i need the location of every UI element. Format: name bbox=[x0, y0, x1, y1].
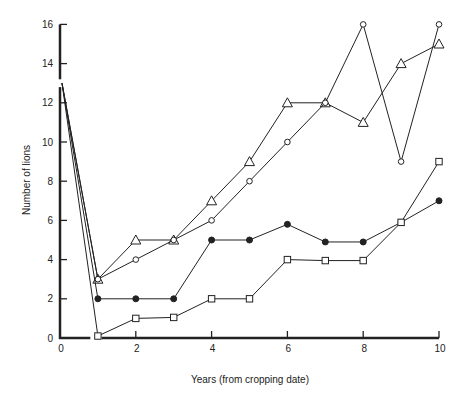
square-marker bbox=[360, 257, 366, 263]
open-circle-marker bbox=[247, 178, 253, 184]
series-line bbox=[62, 83, 439, 299]
x-tick-label: 6 bbox=[286, 343, 292, 354]
y-tick-label: 10 bbox=[42, 137, 54, 148]
square-marker bbox=[322, 257, 328, 263]
y-tick-label: 12 bbox=[42, 97, 54, 108]
y-tick-label: 14 bbox=[42, 58, 54, 69]
filled-circle-marker bbox=[95, 296, 101, 302]
square-marker bbox=[95, 333, 101, 339]
line-chart: 02468101214160246810 Years (from croppin… bbox=[0, 0, 471, 401]
triangle-marker bbox=[396, 59, 406, 68]
open-circle-marker bbox=[285, 139, 291, 145]
square-marker bbox=[246, 296, 252, 302]
y-tick-label: 8 bbox=[47, 176, 53, 187]
y-tick-label: 4 bbox=[47, 254, 53, 265]
square-marker bbox=[398, 219, 404, 225]
series-triangle-open bbox=[62, 39, 444, 283]
open-circle-marker bbox=[209, 218, 215, 224]
square-marker bbox=[208, 296, 214, 302]
square-marker bbox=[171, 314, 177, 320]
open-circle-marker bbox=[436, 22, 442, 28]
series-group bbox=[62, 22, 444, 340]
open-circle-marker bbox=[323, 100, 329, 106]
series-square-open bbox=[62, 83, 442, 339]
x-tick-label: 4 bbox=[210, 343, 216, 354]
x-tick-label: 8 bbox=[361, 343, 367, 354]
y-axis-title: Number of lions bbox=[21, 145, 32, 215]
x-tick-label: 0 bbox=[58, 343, 64, 354]
filled-circle-marker bbox=[284, 221, 290, 227]
filled-circle-marker bbox=[322, 239, 328, 245]
open-circle-marker bbox=[171, 237, 177, 243]
square-marker bbox=[436, 158, 442, 164]
open-circle-marker bbox=[360, 22, 366, 28]
open-circle-marker bbox=[398, 159, 404, 165]
open-circle-marker bbox=[95, 276, 101, 282]
filled-circle-marker bbox=[436, 198, 442, 204]
filled-circle-marker bbox=[171, 296, 177, 302]
square-marker bbox=[133, 315, 139, 321]
triangle-marker bbox=[358, 117, 368, 126]
y-tick-label: 6 bbox=[47, 215, 53, 226]
series-circle-open bbox=[62, 22, 442, 282]
filled-circle-marker bbox=[209, 237, 215, 243]
filled-circle-marker bbox=[247, 237, 253, 243]
filled-circle-marker bbox=[133, 296, 139, 302]
x-tick-label: 2 bbox=[134, 343, 140, 354]
x-tick-label: 10 bbox=[434, 343, 446, 354]
triangle-marker bbox=[245, 157, 255, 166]
y-tick-label: 2 bbox=[47, 293, 53, 304]
series-circle-filled bbox=[62, 83, 442, 302]
square-marker bbox=[284, 256, 290, 262]
filled-circle-marker bbox=[360, 239, 366, 245]
y-tick-label: 0 bbox=[47, 333, 53, 344]
x-axis-title: Years (from cropping date) bbox=[191, 374, 309, 385]
y-tick-label: 16 bbox=[42, 19, 54, 30]
open-circle-marker bbox=[133, 257, 139, 263]
triangle-marker bbox=[434, 39, 444, 48]
